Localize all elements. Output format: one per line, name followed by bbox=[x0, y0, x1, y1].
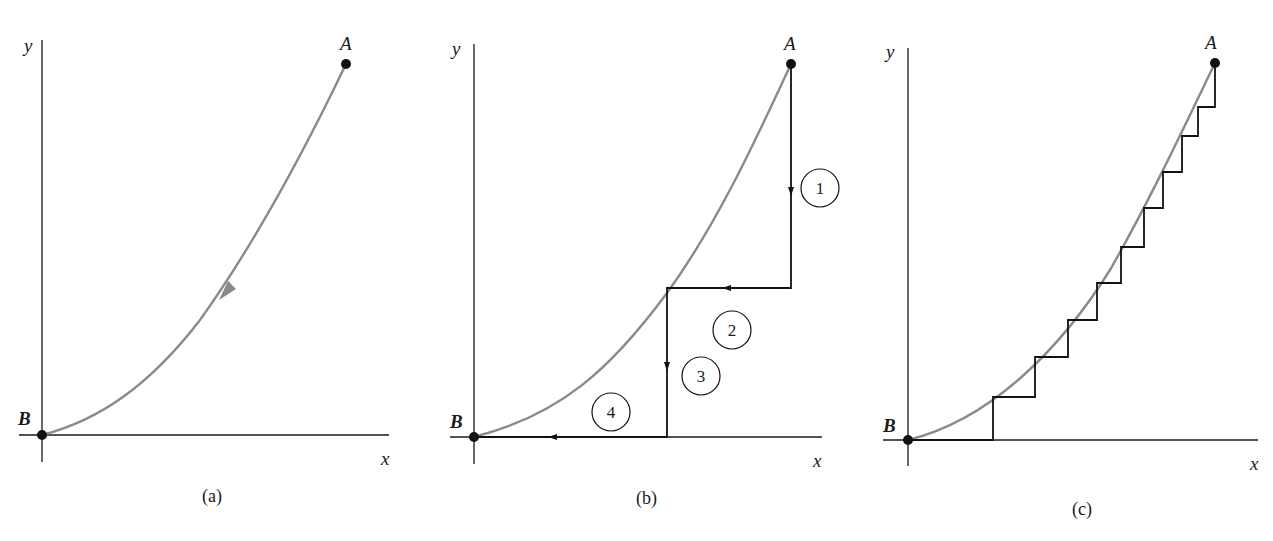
arrow-left-icon bbox=[548, 434, 557, 440]
point-a-dot bbox=[786, 59, 796, 69]
panel-a: y x A B (a) bbox=[17, 33, 390, 507]
staircase-path bbox=[474, 64, 791, 437]
point-b-label: B bbox=[449, 411, 463, 432]
panel-caption: (b) bbox=[636, 488, 657, 509]
curve-a-to-b bbox=[42, 64, 346, 435]
y-axis-label: y bbox=[884, 41, 895, 62]
figure-canvas: y x A B (a) y x 1 2 bbox=[0, 0, 1273, 541]
svg-text:4: 4 bbox=[607, 403, 616, 422]
arrow-down-icon bbox=[788, 187, 794, 196]
point-b-label: B bbox=[17, 408, 31, 429]
point-a-label: A bbox=[1203, 32, 1217, 53]
point-a-dot bbox=[1210, 58, 1220, 68]
segment-label-4: 4 bbox=[592, 393, 630, 431]
y-axis-label: y bbox=[450, 38, 461, 59]
point-a-dot bbox=[341, 59, 351, 69]
point-a-label: A bbox=[338, 33, 352, 54]
staircase-path bbox=[908, 63, 1215, 440]
point-b-label: B bbox=[882, 415, 896, 436]
curve-a-to-b bbox=[908, 63, 1215, 440]
segment-label-1: 1 bbox=[801, 169, 839, 207]
arrow-left-icon bbox=[722, 285, 731, 291]
svg-text:2: 2 bbox=[728, 321, 737, 340]
x-axis-label: x bbox=[812, 450, 822, 471]
segment-label-2: 2 bbox=[713, 311, 751, 349]
y-axis-label: y bbox=[22, 35, 33, 56]
arrow-down-icon bbox=[664, 362, 670, 371]
panel-caption: (c) bbox=[1072, 499, 1092, 520]
point-b-dot bbox=[37, 430, 47, 440]
svg-text:3: 3 bbox=[697, 367, 706, 386]
point-b-dot bbox=[469, 432, 479, 442]
panel-b: y x 1 2 3 4 A B (b) bbox=[449, 33, 839, 509]
panel-c: y x A B (c) bbox=[882, 32, 1259, 520]
svg-text:1: 1 bbox=[816, 179, 825, 198]
panel-caption: (a) bbox=[202, 486, 222, 507]
curve-a-to-b bbox=[474, 64, 791, 437]
x-axis-label: x bbox=[1249, 453, 1259, 474]
segment-label-3: 3 bbox=[682, 357, 720, 395]
point-a-label: A bbox=[782, 33, 796, 54]
x-axis-label: x bbox=[380, 448, 390, 469]
point-b-dot bbox=[903, 435, 913, 445]
